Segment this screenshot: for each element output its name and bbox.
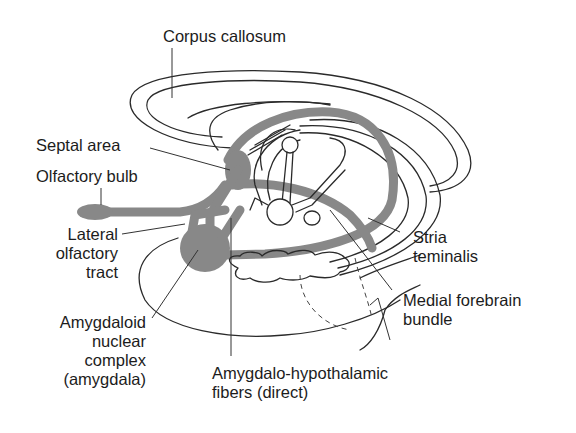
label-line: bundle	[403, 310, 521, 329]
label-corpus-callosum: Corpus callosum	[163, 27, 286, 46]
corpus-callosum-shape	[130, 71, 471, 192]
label-amygdalo-hypothalamic-fibers: Amygdalo-hypothalamic fibers (direct)	[212, 364, 388, 402]
label-line: Medial forebrain	[403, 291, 521, 310]
label-medial-forebrain-bundle: Medial forebrain bundle	[403, 291, 521, 329]
label-amygdala: Amygdaloid nuclear complex (amygdala)	[60, 313, 146, 389]
label-lateral-olfactory-tract: Lateral olfactory tract	[56, 225, 118, 282]
label-line: tract	[56, 263, 118, 282]
label-line: nuclear	[60, 332, 146, 351]
label-line: Stria	[413, 228, 478, 247]
leader-lines	[101, 48, 400, 356]
label-septal-area: Septal area	[36, 136, 120, 155]
label-line: olfactory	[56, 244, 118, 263]
label-line: Amygdalo-hypothalamic	[212, 364, 388, 383]
label-olfactory-bulb: Olfactory bulb	[36, 167, 138, 186]
label-line: (amygdala)	[60, 370, 146, 389]
label-line: Lateral	[56, 225, 118, 244]
label-line: complex	[60, 351, 146, 370]
label-line: Amygdaloid	[60, 313, 146, 332]
label-line: teminalis	[413, 247, 478, 266]
label-line: fibers (direct)	[212, 383, 388, 402]
label-stria-terminalis: Stria teminalis	[413, 228, 478, 266]
